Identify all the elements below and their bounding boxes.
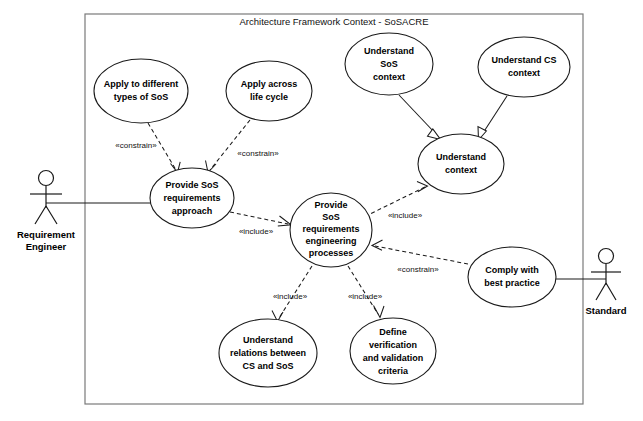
use-case-provide-sos-requirements-engineering-processes[interactable]: Provide SoS requirements engineering pro… xyxy=(290,193,372,267)
use-case-understand-relations-between-cs-and-sos[interactable]: Understand relations between CS and SoS xyxy=(219,319,317,387)
use-case-understand-context[interactable]: Understand context xyxy=(418,134,504,194)
use-case-label-line-2: requirements xyxy=(163,193,220,203)
use-case-label-line-2: verification xyxy=(369,340,417,350)
use-case-label-line-1: Understand xyxy=(436,152,486,162)
use-case-label-line-2: SoS xyxy=(380,59,398,69)
use-case-ellipse[interactable] xyxy=(478,37,570,97)
use-case-provide-sos-requirements-approach[interactable]: Provide SoS requirements approach xyxy=(150,168,234,228)
use-case-label-line-1: Understand xyxy=(364,46,414,56)
actor-standard[interactable]: Standard xyxy=(585,249,626,317)
use-case-label-line-3: and validation xyxy=(363,353,424,363)
use-case-define-verification-and-validation-criteria[interactable]: Define verification and validation crite… xyxy=(350,318,436,384)
use-case-label-line-1: Understand xyxy=(243,335,293,345)
use-case-apply-to-different-types-of-sos[interactable]: Apply to different types of SoS xyxy=(94,59,188,123)
use-case-ellipse[interactable] xyxy=(418,134,504,194)
actor-head-icon xyxy=(39,171,54,186)
stereotype-label-constrain-types: «constrain» xyxy=(115,141,157,150)
stereotype-label-include-relations: «include» xyxy=(273,292,308,301)
use-case-diagram: Architecture Framework Context - SoSACRE… xyxy=(0,0,643,421)
use-case-label-line-2: SoS xyxy=(322,212,340,222)
use-case-label-line-5: processes xyxy=(309,248,354,258)
stereotype-label-include-verification: «include» xyxy=(348,292,383,301)
use-case-label-line-1: Understand CS xyxy=(491,55,556,65)
actor-label-line-1: Standard xyxy=(585,305,626,316)
actor-legs-icon xyxy=(596,283,616,300)
use-case-label-line-1: Apply to different xyxy=(104,79,179,89)
use-case-label-line-1: Provide SoS xyxy=(165,180,218,190)
use-case-apply-across-life-cycle[interactable]: Apply across life cycle xyxy=(226,61,312,121)
actor-label-line-2: Engineer xyxy=(26,241,67,252)
use-case-label-line-1: Apply across xyxy=(241,79,298,89)
use-case-comply-with-best-practice[interactable]: Comply with best practice xyxy=(468,247,556,307)
use-case-ellipse[interactable] xyxy=(226,61,312,121)
use-case-label-line-2: context xyxy=(445,165,477,175)
use-case-label-line-2: relations between xyxy=(230,348,306,358)
use-case-label-line-4: engineering xyxy=(305,236,356,246)
stereotype-label-constrain-best-practice: «constrain» xyxy=(397,265,439,274)
use-case-understand-sos-context[interactable]: Understand SoS context xyxy=(345,33,433,95)
actor-head-icon xyxy=(599,249,614,264)
stereotype-label-include-understand-context: «include» xyxy=(388,211,423,220)
use-case-label-line-1: Provide xyxy=(314,200,347,210)
use-case-label-line-3: context xyxy=(373,72,405,82)
diagram-title: Architecture Framework Context - SoSACRE xyxy=(239,16,428,27)
use-case-label-line-2: context xyxy=(508,68,540,78)
use-case-understand-cs-context[interactable]: Understand CS context xyxy=(478,37,570,97)
use-case-label-line-3: CS and SoS xyxy=(242,361,293,371)
use-case-label-line-2: life cycle xyxy=(250,92,288,102)
use-case-label-line-2: types of SoS xyxy=(114,92,169,102)
use-case-label-line-3: requirements xyxy=(302,224,359,234)
use-case-label-line-1: Comply with xyxy=(485,265,539,275)
actor-requirement-engineer[interactable]: Requirement Engineer xyxy=(17,171,76,253)
stereotype-label-constrain-lifecycle: «constrain» xyxy=(237,149,279,158)
actor-label-line-1: Requirement xyxy=(17,229,76,240)
actor-legs-icon xyxy=(35,206,57,224)
use-case-label-line-2: best practice xyxy=(484,278,540,288)
use-case-label-line-3: approach xyxy=(172,206,213,216)
use-case-label-line-1: Define xyxy=(379,327,407,337)
use-case-label-line-4: criteria xyxy=(378,366,409,376)
stereotype-label-include-approach: «include» xyxy=(239,227,274,236)
diagram-canvas: Architecture Framework Context - SoSACRE… xyxy=(0,0,643,421)
use-case-ellipse[interactable] xyxy=(468,247,556,307)
use-case-ellipse[interactable] xyxy=(94,59,188,123)
